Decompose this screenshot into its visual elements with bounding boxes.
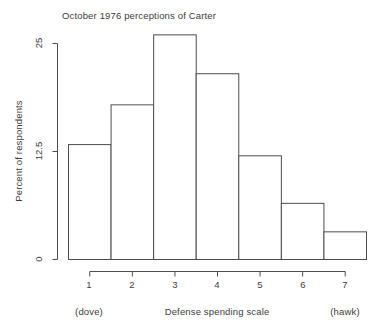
bar [154,35,197,260]
bar [196,74,239,260]
histogram-chart: October 1976 perceptions of Carter Perce… [0,0,385,333]
bar [239,156,282,260]
bar [281,203,324,259]
bars-group [69,35,367,260]
bar [324,232,367,260]
bar [69,145,112,260]
plot-area [0,0,385,333]
bar [111,105,154,260]
